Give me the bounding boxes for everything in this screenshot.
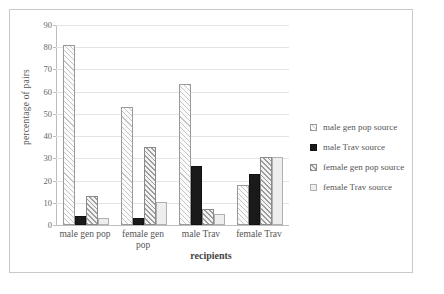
- bar: [86, 196, 98, 225]
- legend-swatch-icon: [310, 124, 317, 131]
- chart-figure: percentage of pairs 9080706050403020100 …: [9, 9, 413, 273]
- x-axis-title: recipients: [10, 250, 412, 261]
- y-tick-label-50: 50: [30, 109, 52, 119]
- legend-swatch-icon: [310, 164, 317, 171]
- bar: [144, 147, 156, 225]
- y-tick-label-10: 10: [30, 198, 52, 208]
- bar: [156, 202, 168, 225]
- bar: [133, 218, 145, 225]
- bar: [202, 209, 214, 225]
- y-tick-mark-0: [53, 225, 56, 226]
- legend-item: male gen pop source: [310, 118, 410, 136]
- legend-label: female gen pop source: [323, 162, 404, 172]
- y-tick-mark-10: [53, 203, 56, 204]
- y-tick-mark-40: [53, 136, 56, 137]
- y-tick-mark-70: [53, 69, 56, 70]
- x-tick-label: female Trav: [222, 229, 296, 240]
- y-tick-mark-80: [53, 47, 56, 48]
- bar: [98, 218, 110, 225]
- y-tick-label-40: 40: [30, 131, 52, 141]
- y-tick-mark-30: [53, 158, 56, 159]
- chart-legend: male gen pop sourcemale Trav sourcefemal…: [310, 118, 410, 198]
- x-tick-label-line: female Trav: [222, 229, 296, 240]
- y-tick-label-60: 60: [30, 87, 52, 97]
- bar-group: [173, 25, 231, 225]
- bar: [121, 107, 133, 225]
- legend-label: male gen pop source: [323, 122, 397, 132]
- y-tick-mark-90: [53, 25, 56, 26]
- y-tick-label-20: 20: [30, 176, 52, 186]
- y-tick-label-80: 80: [30, 42, 52, 52]
- y-tick-mark-60: [53, 92, 56, 93]
- legend-label: female Trav source: [323, 182, 392, 192]
- plot-area: 9080706050403020100 male gen popfemale g…: [56, 25, 289, 225]
- y-tick-mark-20: [53, 181, 56, 182]
- bar: [63, 45, 75, 225]
- y-tick-label-30: 30: [30, 153, 52, 163]
- bar: [237, 185, 249, 225]
- bar-groups: [57, 25, 289, 225]
- legend-item: female Trav source: [310, 178, 410, 196]
- bar-group: [57, 25, 115, 225]
- legend-label: male Trav source: [323, 142, 385, 152]
- bar: [179, 84, 191, 225]
- bar: [214, 214, 226, 225]
- bar: [75, 216, 87, 225]
- bar: [260, 157, 272, 225]
- bar-group: [115, 25, 173, 225]
- bar: [249, 174, 261, 225]
- legend-swatch-icon: [310, 184, 317, 191]
- bar: [191, 166, 203, 225]
- gridline-0: [56, 225, 289, 226]
- bar-group: [231, 25, 289, 225]
- y-tick-label-70: 70: [30, 64, 52, 74]
- legend-item: female gen pop source: [310, 158, 410, 176]
- y-tick-label-90: 90: [30, 20, 52, 30]
- bar: [272, 157, 284, 225]
- legend-swatch-icon: [310, 144, 317, 151]
- y-tick-mark-50: [53, 114, 56, 115]
- legend-item: male Trav source: [310, 138, 410, 156]
